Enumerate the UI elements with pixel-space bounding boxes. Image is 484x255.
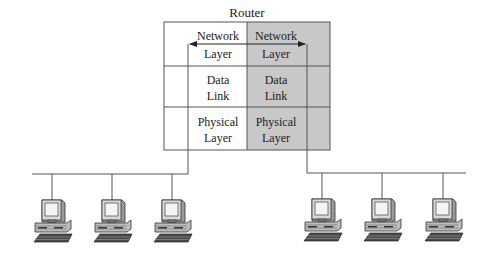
- right-network-label-1: Network: [255, 29, 297, 43]
- right-network-label-2: Layer: [262, 47, 290, 61]
- router-box: [164, 22, 330, 160]
- computer-icon-right-1: [304, 199, 342, 241]
- left-physical-label-1: Physical: [198, 115, 239, 129]
- computer-icon-left-2: [94, 200, 132, 242]
- right-datalink-label-2: Link: [265, 89, 288, 103]
- computer-icon-left-3: [154, 200, 192, 242]
- right-physical-label-2: Layer: [262, 131, 290, 145]
- left-physical-label-2: Layer: [204, 131, 232, 145]
- left-network-label-1: Network: [197, 29, 239, 43]
- computer-icon-right-2: [364, 199, 402, 241]
- computer-icon-right-3: [425, 199, 463, 241]
- left-datalink-label-2: Link: [207, 89, 230, 103]
- right-physical-label-1: Physical: [256, 115, 297, 129]
- right-network: [307, 160, 466, 199]
- left-network-label-2: Layer: [204, 47, 232, 61]
- left-network: [32, 160, 188, 200]
- router-title: Router: [229, 5, 265, 20]
- left-datalink-label-1: Data: [207, 73, 230, 87]
- computer-icon-left-1: [34, 200, 72, 242]
- right-datalink-label-1: Data: [265, 73, 288, 87]
- router-network-diagram: Router Network Layer Data Link Physical …: [0, 0, 484, 255]
